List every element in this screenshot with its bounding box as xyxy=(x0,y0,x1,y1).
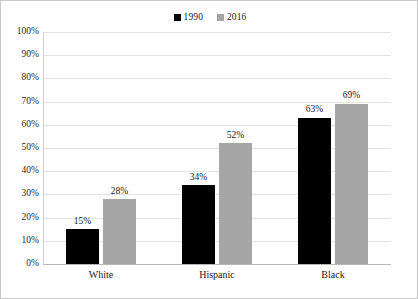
y-axis-tick-label: 100% xyxy=(3,27,39,37)
y-axis-tick-label: 90% xyxy=(3,50,39,60)
bar-value-label-white-1990: 15% xyxy=(60,217,106,227)
chart-container: 1990 2016 0%10%20%30%40%50%60%70%80%90%1… xyxy=(0,0,418,299)
bar-value-label-white-2016: 28% xyxy=(97,187,143,197)
y-axis-tick-label: 30% xyxy=(3,190,39,200)
bar-value-label-hispanic-2016: 52% xyxy=(213,131,259,141)
y-axis-tick-label: 80% xyxy=(3,74,39,84)
x-axis-line xyxy=(43,264,391,265)
legend-swatch-1990 xyxy=(174,14,181,21)
bar-black-2016[interactable] xyxy=(335,104,368,264)
bars-layer: 15%28%34%52%63%69% xyxy=(43,32,391,264)
legend-entry-1990: 1990 xyxy=(174,13,203,23)
y-axis-tick-label: 20% xyxy=(3,213,39,223)
category-label-black: Black xyxy=(278,269,388,281)
bar-white-1990[interactable] xyxy=(66,229,99,264)
legend-entry-2016: 2016 xyxy=(217,13,246,23)
legend-label-1990: 1990 xyxy=(184,13,203,23)
category-label-hispanic: Hispanic xyxy=(162,269,272,281)
category-label-white: White xyxy=(46,269,156,281)
y-axis-tick-label: 50% xyxy=(3,143,39,153)
x-axis-category-labels: WhiteHispanicBlack xyxy=(43,269,391,289)
bar-hispanic-1990[interactable] xyxy=(182,185,215,264)
y-axis-tick-labels: 0%10%20%30%40%50%60%70%80%90%100% xyxy=(1,32,39,264)
y-axis-tick-label: 60% xyxy=(3,120,39,130)
bar-white-2016[interactable] xyxy=(103,199,136,264)
y-axis-tick-label: 0% xyxy=(3,259,39,269)
bar-black-1990[interactable] xyxy=(298,118,331,264)
chart-legend: 1990 2016 xyxy=(1,13,418,23)
y-axis-tick-label: 40% xyxy=(3,166,39,176)
bar-value-label-black-2016: 69% xyxy=(329,91,375,101)
legend-label-2016: 2016 xyxy=(227,13,246,23)
bar-value-label-black-1990: 63% xyxy=(292,105,338,115)
bar-hispanic-2016[interactable] xyxy=(219,143,252,264)
y-axis-tick-label: 10% xyxy=(3,236,39,246)
bar-value-label-hispanic-1990: 34% xyxy=(176,173,222,183)
legend-swatch-2016 xyxy=(217,14,224,21)
y-axis-tick-label: 70% xyxy=(3,97,39,107)
